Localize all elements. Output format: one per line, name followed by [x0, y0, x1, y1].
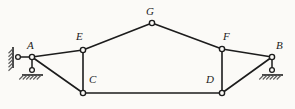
truss-joint-a — [29, 54, 34, 59]
support-B-vertical-link-pin — [270, 68, 275, 73]
truss-member-f-b — [222, 49, 272, 57]
node-label-e: E — [76, 31, 83, 42]
node-label-a: A — [27, 40, 34, 51]
truss-members-group — [32, 23, 272, 93]
node-label-f: F — [223, 31, 230, 42]
support-A-horizontal-link-pin — [16, 55, 21, 60]
node-label-d: D — [206, 74, 214, 85]
truss-member-a-e — [32, 50, 83, 57]
truss-joint-e — [80, 47, 85, 52]
support-A-vertical-link-pin — [30, 68, 35, 73]
truss-joint-d — [219, 90, 224, 95]
truss-joint-c — [80, 90, 85, 95]
truss-joints-group — [29, 20, 274, 95]
node-label-g: G — [146, 6, 154, 17]
truss-joint-g — [149, 20, 154, 25]
node-label-b: B — [276, 40, 283, 51]
node-label-c: C — [89, 74, 96, 85]
truss-member-g-f — [152, 23, 222, 49]
truss-figure: ABCDEFG — [0, 0, 295, 109]
truss-joint-b — [269, 54, 274, 59]
truss-member-e-g — [83, 23, 152, 50]
truss-joint-f — [219, 46, 224, 51]
